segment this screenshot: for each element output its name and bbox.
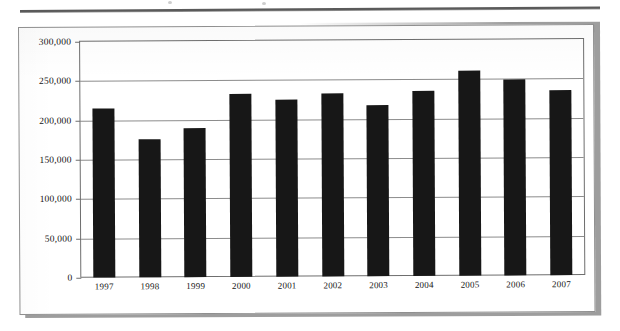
x-tick-label: 2000	[219, 281, 265, 292]
scan-artifact-top-rule	[20, 6, 600, 13]
bar	[92, 108, 115, 277]
x-tick-label: 1997	[81, 281, 127, 292]
bar	[458, 71, 481, 276]
x-tick-label: 1998	[127, 281, 173, 292]
bar	[549, 90, 572, 275]
y-tick-mark	[76, 278, 81, 279]
bar	[504, 79, 527, 275]
y-tick-label: 0	[67, 273, 72, 283]
y-tick-label: 200,000	[39, 115, 71, 125]
bar	[138, 140, 161, 278]
x-tick-label: 2004	[401, 280, 447, 291]
bar	[229, 93, 252, 276]
bar	[184, 128, 207, 278]
x-tick-label: 2001	[264, 280, 310, 291]
scan-artifact-speck	[168, 1, 172, 4]
bar	[367, 105, 390, 277]
x-tick-label: 2007	[539, 279, 585, 290]
y-tick-label: 300,000	[39, 37, 71, 47]
bars-group	[80, 39, 584, 278]
y-tick-label: 50,000	[45, 233, 72, 243]
x-tick-label: 2005	[447, 280, 493, 291]
scan-artifact-speck	[262, 2, 266, 5]
x-tick-label: 1999	[173, 281, 219, 292]
y-tick-label: 100,000	[40, 194, 72, 204]
x-tick-label: 2002	[310, 280, 356, 291]
bar-chart: 050,000100,000150,000200,000250,000300,0…	[19, 25, 597, 316]
x-tick-label: 2006	[493, 279, 539, 290]
y-axis: 050,000100,000150,000200,000250,000300,0…	[19, 41, 76, 278]
y-tick-label: 150,000	[39, 155, 71, 165]
chart-figure-frame: 050,000100,000150,000200,000250,000300,0…	[18, 24, 596, 315]
y-tick-label: 250,000	[39, 76, 71, 86]
x-axis: 1997199819992000200120022003200420052006…	[81, 277, 584, 300]
bar	[275, 100, 298, 277]
bar	[321, 93, 344, 276]
bar	[412, 91, 435, 276]
x-tick-label: 2003	[356, 280, 402, 291]
